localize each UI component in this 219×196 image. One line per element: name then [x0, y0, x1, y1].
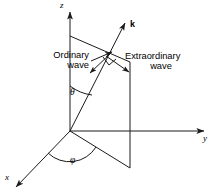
- ordinary-wave-label-line1: Ordinary: [53, 50, 89, 60]
- extraordinary-wave-label-line2: wave: [125, 62, 197, 72]
- x-axis-label: x: [5, 173, 9, 182]
- x-axis: [16, 131, 70, 187]
- extraordinary-wave-label: Extraordinary wave: [125, 52, 211, 72]
- vector-diagram-figure: z y x k θ φ Ordinary wave Extraordinary …: [0, 0, 219, 196]
- theta-angle-label: θ: [70, 88, 75, 98]
- ordinary-wave-label: Ordinary wave: [14, 51, 89, 71]
- y-axis-label: y: [203, 134, 207, 143]
- diagram-canvas: [0, 0, 219, 196]
- extraordinary-wave-label-line1: Extraordinary: [125, 51, 180, 61]
- z-axis-label: z: [60, 1, 64, 10]
- phi-angle-label: φ: [70, 156, 75, 166]
- plane-bottom-edge: [70, 131, 130, 168]
- k-vector-label: k: [130, 20, 135, 29]
- ordinary-wave-pointer-arrow: [91, 52, 112, 61]
- ordinary-wave-label-line2: wave: [14, 61, 89, 71]
